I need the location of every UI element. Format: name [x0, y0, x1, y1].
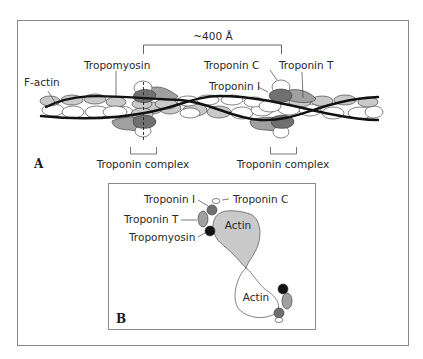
- label-tropomyosin: Tropomyosin: [83, 59, 150, 71]
- spacing-label: ~400 Å: [193, 30, 233, 42]
- b-label-troponin-i: Troponin I: [143, 193, 195, 205]
- label-troponin-t: Troponin T: [278, 59, 334, 71]
- figure-canvas: ~400 Å: [0, 0, 423, 359]
- b-label-actin-top: Actin: [225, 219, 251, 231]
- panel-b: Troponin I Troponin C Troponin T Tropomy…: [109, 184, 316, 330]
- b-label-troponin-t: Troponin T: [123, 213, 179, 225]
- label-troponin-complex-1: Troponin complex: [96, 158, 190, 170]
- panel-b-letter: B: [116, 312, 126, 326]
- label-f-actin: F-actin: [24, 76, 60, 88]
- b-label-actin-bottom: Actin: [243, 291, 269, 303]
- label-troponin-c: Troponin C: [203, 59, 259, 71]
- label-troponin-i: Troponin I: [208, 80, 260, 92]
- label-troponin-complex-2: Troponin complex: [236, 158, 330, 170]
- panel-a-letter: A: [33, 157, 44, 171]
- b-label-tropomyosin: Tropomyosin: [128, 231, 195, 243]
- b-label-troponin-c: Troponin C: [232, 193, 288, 205]
